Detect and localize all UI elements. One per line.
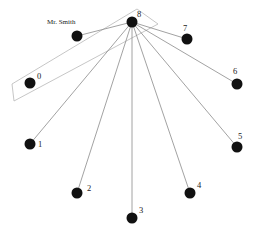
node-label-smith: Mr. Smith xyxy=(47,18,76,26)
node-label-3: 3 xyxy=(139,205,143,215)
node-3[interactable] xyxy=(127,213,138,224)
edge-8-1[interactable] xyxy=(30,22,132,144)
edge-layer xyxy=(30,22,237,218)
node-7[interactable] xyxy=(182,34,193,45)
node-1[interactable] xyxy=(25,139,36,150)
node-label-4: 4 xyxy=(197,180,202,190)
edge-8-4[interactable] xyxy=(132,22,190,193)
node-2[interactable] xyxy=(72,188,83,199)
node-label-2: 2 xyxy=(87,183,91,193)
node-8[interactable] xyxy=(127,17,138,28)
node-6[interactable] xyxy=(232,79,243,90)
graph-canvas[interactable]: 8Mr. Smith70615243 xyxy=(0,0,257,235)
node-4[interactable] xyxy=(185,188,196,199)
node-5[interactable] xyxy=(232,142,243,153)
node-label-5: 5 xyxy=(238,131,242,141)
node-label-6: 6 xyxy=(233,66,237,76)
node-smith[interactable] xyxy=(72,31,83,42)
node-label-8: 8 xyxy=(137,9,141,19)
node-label-7: 7 xyxy=(183,23,187,33)
node-label-1: 1 xyxy=(38,139,42,149)
label-layer: 8Mr. Smith70615243 xyxy=(37,9,242,215)
edge-8-7[interactable] xyxy=(132,22,187,39)
node-layer xyxy=(25,17,243,224)
node-label-0: 0 xyxy=(37,71,41,81)
graph-svg: 8Mr. Smith70615243 xyxy=(0,0,257,235)
edge-8-smith[interactable] xyxy=(77,22,132,36)
edge-8-2[interactable] xyxy=(77,22,132,193)
node-0[interactable] xyxy=(25,78,36,89)
